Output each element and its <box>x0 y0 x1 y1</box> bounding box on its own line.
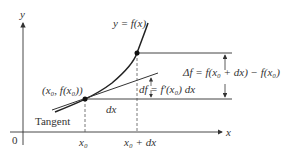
tick-x0-dx: x₀ + dx <box>124 137 156 148</box>
delta-f-label: Δf = f(x₀ + dx) − f(x₀) <box>183 67 280 78</box>
tick-x0: x₀ <box>79 137 88 148</box>
curve-label: y = f(x) <box>113 18 146 29</box>
tangent-label: Tangent <box>35 116 70 127</box>
origin-label: 0 <box>12 135 18 146</box>
dx-label: dx <box>106 104 116 115</box>
point-x0 <box>83 97 88 102</box>
point-x0-dx <box>135 51 140 56</box>
point-label: (x₀, f(x₀)) <box>42 85 83 96</box>
x-axis-label: x <box>226 127 231 138</box>
df-label: df = f′(x₀) dx <box>139 84 195 95</box>
differential-diagram: y x 0 y = f(x) (x₀, f(x₀)) Tangent dx df… <box>0 0 291 155</box>
y-axis-label: y <box>20 9 25 20</box>
